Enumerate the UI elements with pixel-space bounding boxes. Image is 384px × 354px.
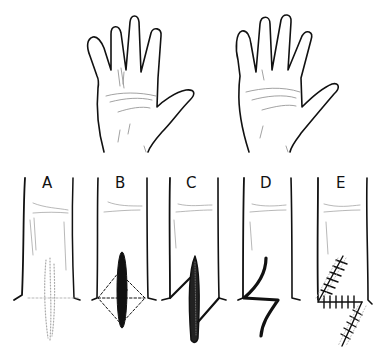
panel-label-d: D <box>260 174 272 192</box>
panel-label-c: C <box>186 174 196 192</box>
panel-e: E <box>316 174 372 346</box>
panel-a: A <box>14 174 80 340</box>
panel-label-b: B <box>115 174 125 192</box>
hand-before <box>88 16 194 152</box>
excised-scar <box>117 252 127 328</box>
hand-after <box>236 15 338 152</box>
panel-c: C <box>162 174 226 342</box>
suture-lines <box>318 256 362 346</box>
panel-d: D <box>238 174 300 336</box>
z-plasty-illustration: A B <box>0 0 384 354</box>
panel-b: B <box>92 174 156 328</box>
panel-label-e: E <box>336 174 345 192</box>
panel-label-a: A <box>42 174 53 192</box>
